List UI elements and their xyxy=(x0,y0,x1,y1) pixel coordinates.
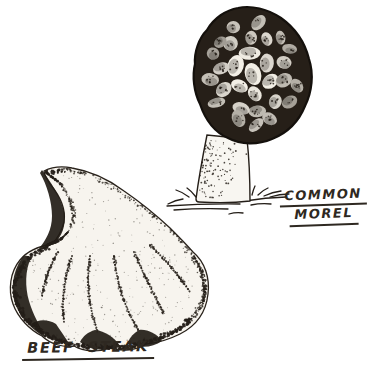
beefsteak-illustration xyxy=(10,167,208,351)
common-morel-illustration xyxy=(167,7,312,214)
common-morel-label: COMMON MOREL xyxy=(278,186,368,228)
beefsteak-label-text: BEEF STEAK xyxy=(22,339,154,361)
common-morel-label-line2: MOREL xyxy=(289,206,358,227)
mushroom-line-art xyxy=(0,0,369,366)
common-morel-label-line1: COMMON xyxy=(279,186,367,207)
illustration-canvas: COMMON MOREL BEEF STEAK xyxy=(0,0,369,366)
beefsteak-label: BEEF STEAK xyxy=(14,339,162,361)
